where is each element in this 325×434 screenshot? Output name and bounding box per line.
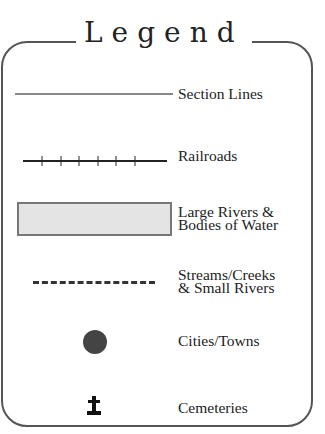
city-dot-icon: [83, 330, 107, 354]
legend-title: Legend: [76, 17, 252, 49]
railroads-label: Railroads: [178, 149, 237, 163]
cemetery-cross-icon: [86, 396, 102, 416]
cities-label: Cities/Towns: [178, 334, 260, 348]
railroad-symbol-icon: [23, 155, 168, 167]
section-line-symbol-icon: [15, 93, 173, 95]
section-lines-label: Section Lines: [178, 87, 263, 101]
large-rivers-label-line2: Bodies of Water: [178, 218, 278, 232]
streams-label-line2: & Small Rivers: [178, 281, 274, 295]
stream-symbol-icon: [33, 281, 155, 284]
water-body-symbol-icon: [17, 202, 172, 236]
cemeteries-label: Cemeteries: [178, 401, 248, 415]
